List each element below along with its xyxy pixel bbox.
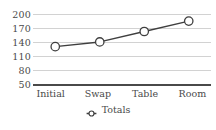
x-axis-labels: Initial Swap Table Room bbox=[27, 88, 216, 102]
data-point-marker bbox=[140, 27, 148, 35]
series-markers bbox=[51, 17, 193, 51]
x-axis-tick-label: Initial bbox=[27, 88, 74, 102]
series-totals bbox=[33, 14, 211, 85]
y-axis-tick-label: 110 bbox=[1, 52, 31, 62]
y-axis-tick-label: 80 bbox=[1, 66, 31, 76]
data-point-marker bbox=[96, 38, 104, 46]
x-axis-tick-label: Room bbox=[169, 88, 216, 102]
series-line bbox=[55, 21, 189, 47]
y-axis-tick-label: 170 bbox=[1, 24, 31, 34]
data-point-marker bbox=[51, 42, 59, 50]
y-axis-tick-label: 200 bbox=[1, 10, 31, 20]
x-axis-tick-label: Table bbox=[122, 88, 169, 102]
chart-legend: Totals bbox=[0, 104, 216, 115]
y-axis-tick-label: 140 bbox=[1, 38, 31, 48]
open-circle-marker-icon bbox=[86, 104, 97, 115]
data-point-marker bbox=[185, 17, 193, 25]
plot-area bbox=[33, 14, 211, 85]
legend-entry-label: Totals bbox=[102, 104, 131, 115]
x-axis-tick-label: Swap bbox=[74, 88, 121, 102]
line-chart: 200 170 140 110 80 50 Initial Swap Table… bbox=[0, 0, 216, 130]
